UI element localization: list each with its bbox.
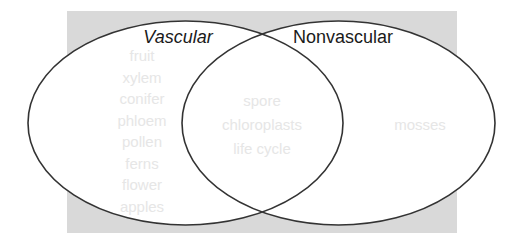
- vascular-item: pollen: [122, 133, 162, 150]
- vascular-title: Vascular: [143, 27, 213, 47]
- vascular-item: apples: [120, 198, 164, 215]
- shared-item: life cycle: [233, 140, 291, 157]
- shared-item: chloroplasts: [222, 116, 302, 133]
- vascular-item: fruit: [129, 47, 155, 64]
- vascular-item: flower: [122, 176, 162, 193]
- nonvascular-item: mosses: [394, 116, 446, 133]
- nonvascular-title: Nonvascular: [293, 27, 393, 47]
- shared-item: spore: [243, 92, 281, 109]
- vascular-item: phloem: [117, 112, 166, 129]
- vascular-item: conifer: [119, 90, 164, 107]
- vascular-item: xylem: [122, 69, 161, 86]
- venn-diagram: Vascular Nonvascular fruit xylem conifer…: [0, 0, 524, 243]
- vascular-item: ferns: [125, 155, 158, 172]
